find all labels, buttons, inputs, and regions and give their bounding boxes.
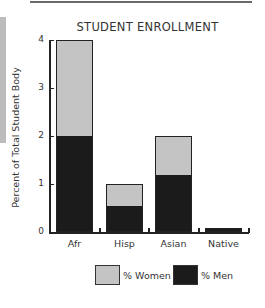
- x-tick-label: Afr: [55, 238, 95, 249]
- x-tick: [198, 228, 200, 233]
- bar-segment-women: [57, 41, 92, 136]
- legend-label-women: % Women: [123, 270, 171, 281]
- y-tick: [49, 232, 54, 234]
- y-axis: [49, 41, 51, 233]
- y-axis-label: Percent of Total Student Body: [10, 50, 21, 225]
- top-rule: [30, 1, 252, 3]
- y-tick: [49, 40, 54, 42]
- y-tick: [49, 184, 54, 186]
- x-tick: [148, 228, 150, 233]
- bar-native: [205, 228, 242, 232]
- bar-asian: [155, 136, 192, 232]
- x-tick-label: Hisp: [105, 238, 145, 249]
- y-tick: [49, 88, 54, 90]
- bar-hisp: [106, 184, 143, 232]
- bar-segment-women: [107, 185, 142, 206]
- side-panel: [0, 17, 6, 143]
- y-tick-label: 0: [36, 226, 44, 236]
- bar-segment-men: [206, 229, 241, 231]
- y-tick-label: 3: [36, 82, 44, 92]
- legend-swatch-men: [173, 265, 198, 285]
- chart-title: STUDENT ENROLLMENT: [0, 20, 265, 34]
- x-tick: [99, 228, 101, 233]
- x-tick: [248, 228, 250, 233]
- y-tick-label: 2: [36, 130, 44, 140]
- bar-segment-men: [107, 206, 142, 231]
- y-tick-label: 1: [36, 178, 44, 188]
- bar-segment-women: [156, 137, 191, 175]
- y-tick-label: 4: [36, 34, 44, 44]
- bar-afr: [56, 40, 93, 232]
- legend-label-men: % Men: [201, 270, 233, 281]
- y-tick: [49, 136, 54, 138]
- legend-swatch-women: [95, 265, 120, 285]
- bar-segment-men: [156, 175, 191, 231]
- x-tick-label: Native: [204, 238, 244, 249]
- x-tick-label: Asian: [154, 238, 194, 249]
- bar-segment-men: [57, 136, 92, 231]
